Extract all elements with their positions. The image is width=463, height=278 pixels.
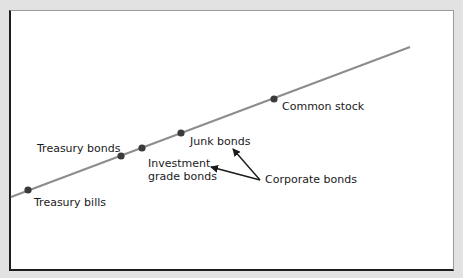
arrow-to-investment-grade-bonds [211, 167, 260, 180]
label-treasury-bonds: Treasury bonds [37, 142, 121, 155]
label-common-stock: Common stock [282, 100, 364, 113]
label-corporate-bonds: Corporate bonds [265, 173, 357, 186]
point-investment-grade-bonds [138, 144, 145, 151]
arrow-to-junk-bonds [233, 149, 260, 180]
label-treasury-bills: Treasury bills [34, 196, 106, 209]
label-investment-line2: grade bonds [148, 170, 217, 183]
label-investment-line1: Investment [148, 157, 217, 170]
point-common-stock [270, 95, 277, 102]
point-treasury-bills [24, 186, 31, 193]
label-investment-grade-bonds: Investment grade bonds [148, 157, 217, 183]
point-junk-bonds [177, 129, 184, 136]
label-junk-bonds: Junk bonds [190, 135, 250, 148]
